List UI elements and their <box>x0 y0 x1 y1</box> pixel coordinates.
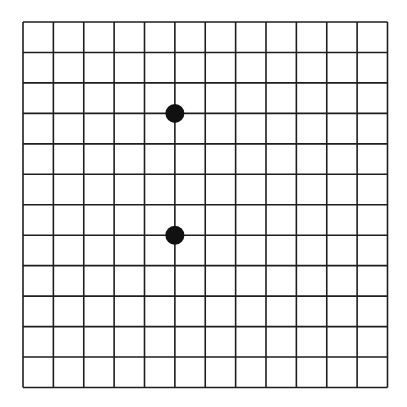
game-board[interactable] <box>0 0 407 407</box>
black-stone[interactable] <box>165 104 184 123</box>
board-grid <box>23 22 388 388</box>
black-stone[interactable] <box>165 226 184 245</box>
